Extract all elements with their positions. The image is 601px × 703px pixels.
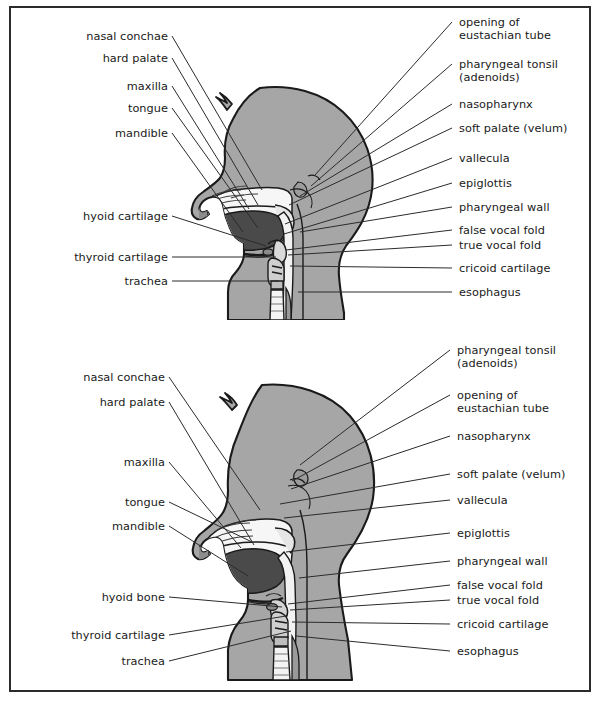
panel-upper-airway-rest: nasal conchaehard palatemaxillatongueman… [0, 0, 601, 320]
anatomy-figure: nasal conchaehard palatemaxillatongueman… [0, 0, 601, 703]
hyoid-bone [267, 604, 278, 611]
label-true-vocal-fold: true vocal fold [457, 594, 539, 607]
label-esophagus: esophagus [459, 286, 521, 299]
label-opening-of-eustachian-tube: opening of eustachian tube [459, 16, 551, 43]
label-soft-palate-velum: soft palate (velum) [457, 468, 565, 481]
label-opening-of-eustachian-tube: opening of eustachian tube [457, 389, 549, 416]
label-hyoid-cartilage: hyoid cartilage [0, 210, 168, 223]
label-thyroid-cartilage: thyroid cartilage [0, 629, 165, 642]
label-mandible: mandible [0, 520, 165, 533]
tongue [211, 549, 286, 594]
panel-upper-airway-swallow: nasal conchaehard palatemaxillatongueman… [0, 320, 601, 703]
label-nasopharynx: nasopharynx [457, 430, 531, 443]
label-trachea: trachea [0, 275, 168, 288]
cricoid-cartilage [274, 637, 288, 646]
label-pharyngeal-tonsil-adenoids: pharyngeal tonsil (adenoids) [459, 58, 558, 85]
label-hyoid-bone: hyoid bone [0, 591, 165, 604]
label-hard-palate: hard palate [0, 52, 168, 65]
label-esophagus: esophagus [457, 645, 519, 658]
label-true-vocal-fold: true vocal fold [459, 239, 541, 252]
label-pharyngeal-wall: pharyngeal wall [459, 201, 550, 214]
label-maxilla: maxilla [0, 80, 168, 93]
label-mandible: mandible [0, 127, 168, 140]
label-nasal-conchae: nasal conchae [0, 371, 165, 384]
hyoid-cartilage [263, 249, 273, 255]
label-tongue: tongue [0, 102, 168, 115]
label-false-vocal-fold: false vocal fold [457, 579, 543, 592]
label-epiglottis: epiglottis [459, 177, 512, 190]
cricoid-cartilage [271, 281, 283, 289]
label-pharyngeal-wall: pharyngeal wall [457, 555, 548, 568]
label-nasopharynx: nasopharynx [459, 98, 533, 111]
label-maxilla: maxilla [0, 456, 165, 469]
label-tongue: tongue [0, 496, 165, 509]
leader-opening-of-eustachian-tube [315, 22, 452, 175]
label-epiglottis: epiglottis [457, 527, 510, 540]
label-vallecula: vallecula [457, 494, 508, 507]
label-cricoid-cartilage: cricoid cartilage [459, 262, 550, 275]
trachea [270, 290, 284, 320]
label-cricoid-cartilage: cricoid cartilage [457, 618, 548, 631]
label-soft-palate-velum: soft palate (velum) [459, 122, 567, 135]
label-vallecula: vallecula [459, 152, 510, 165]
label-false-vocal-fold: false vocal fold [459, 224, 545, 237]
label-nasal-conchae: nasal conchae [0, 30, 168, 43]
forehead-tuft [220, 393, 237, 410]
label-hard-palate: hard palate [0, 396, 165, 409]
label-thyroid-cartilage: thyroid cartilage [0, 251, 168, 264]
label-pharyngeal-tonsil-adenoids: pharyngeal tonsil (adenoids) [457, 344, 556, 371]
label-trachea: trachea [0, 655, 165, 668]
forehead-tuft [216, 93, 232, 110]
